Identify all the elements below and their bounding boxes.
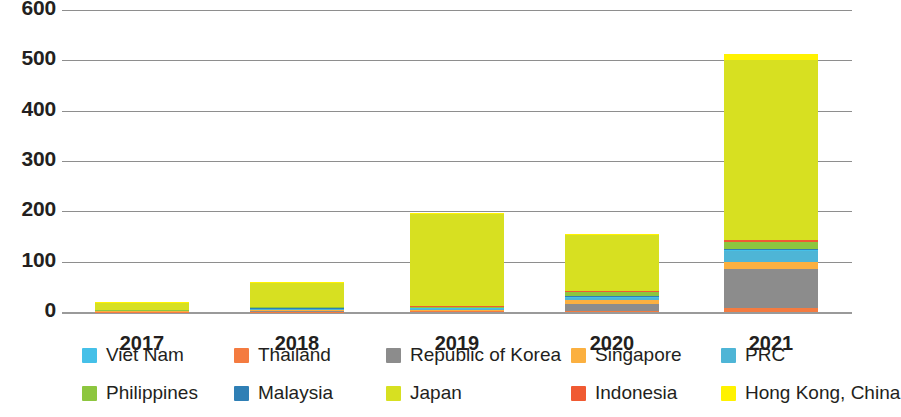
legend-swatch-icon	[82, 386, 97, 401]
legend-swatch-icon	[571, 386, 586, 401]
legend-label: PRC	[745, 344, 785, 366]
bar-segment-2020-republic-of-korea[interactable]	[565, 304, 659, 311]
legend-label: Viet Nam	[106, 344, 184, 366]
chart-legend: Viet NamThailandRepublic of KoreaSingapo…	[82, 336, 852, 412]
legend-item-prc[interactable]: PRC	[721, 344, 901, 366]
legend-swatch-icon	[386, 386, 401, 401]
y-axis-tick-400: 400	[4, 97, 56, 121]
bar-2021[interactable]	[724, 54, 818, 312]
bar-segment-2021-japan[interactable]	[724, 60, 818, 240]
legend-item-thailand[interactable]: Thailand	[234, 344, 386, 366]
y-axis-tick-0: 0	[4, 298, 56, 322]
bar-segment-2017-japan[interactable]	[95, 303, 189, 310]
legend-label: Japan	[410, 382, 462, 404]
y-axis-tick-100: 100	[4, 248, 56, 272]
bar-segment-2021-republic-of-korea[interactable]	[724, 269, 818, 308]
legend-label: Indonesia	[595, 382, 677, 404]
legend-item-japan[interactable]: Japan	[386, 382, 571, 404]
legend-label: Philippines	[106, 382, 198, 404]
bar-2019[interactable]	[410, 213, 504, 312]
y-axis-tick-300: 300	[4, 147, 56, 171]
legend-item-indonesia[interactable]: Indonesia	[571, 382, 721, 404]
legend-label: Republic of Korea	[410, 344, 561, 366]
legend-item-singapore[interactable]: Singapore	[571, 344, 721, 366]
y-axis-tick-600: 600	[4, 0, 56, 20]
legend-label: Malaysia	[258, 382, 333, 404]
bar-segment-2018-japan[interactable]	[250, 283, 344, 307]
legend-label: Thailand	[258, 344, 331, 366]
legend-item-hong-kong-china[interactable]: Hong Kong, China	[721, 382, 901, 404]
bar-segment-2019-thailand[interactable]	[410, 311, 504, 312]
legend-item-philippines[interactable]: Philippines	[82, 382, 234, 404]
legend-swatch-icon	[721, 386, 736, 401]
bar-segment-2021-thailand[interactable]	[724, 308, 818, 312]
legend-swatch-icon	[386, 348, 401, 363]
legend-item-malaysia[interactable]: Malaysia	[234, 382, 386, 404]
legend-label: Singapore	[595, 344, 682, 366]
gridline-600	[62, 10, 852, 11]
legend-swatch-icon	[234, 348, 249, 363]
legend-label: Hong Kong, China	[745, 382, 900, 404]
y-axis-tick-500: 500	[4, 46, 56, 70]
bar-segment-2021-singapore[interactable]	[724, 262, 818, 269]
legend-item-republic-of-korea[interactable]: Republic of Korea	[386, 344, 571, 366]
legend-swatch-icon	[571, 348, 586, 363]
legend-swatch-icon	[234, 386, 249, 401]
bar-2020[interactable]	[565, 233, 659, 312]
bar-segment-2018-thailand[interactable]	[250, 312, 344, 313]
bar-segment-2020-thailand[interactable]	[565, 311, 659, 312]
bar-2017[interactable]	[95, 302, 189, 312]
legend-item-viet-nam[interactable]: Viet Nam	[82, 344, 234, 366]
legend-swatch-icon	[721, 348, 736, 363]
bar-segment-2021-prc[interactable]	[724, 251, 818, 262]
bar-segment-2020-japan[interactable]	[565, 235, 659, 291]
bar-segment-2019-japan[interactable]	[410, 214, 504, 306]
y-axis-tick-200: 200	[4, 197, 56, 221]
y-axis-tick-labels: 0100200300400500600	[0, 10, 56, 312]
bar-2018[interactable]	[250, 282, 344, 312]
legend-swatch-icon	[82, 348, 97, 363]
x-axis-line	[62, 312, 852, 314]
plot-area: 20172018201920202021	[62, 10, 852, 312]
bar-segment-2021-philippines[interactable]	[724, 242, 818, 249]
